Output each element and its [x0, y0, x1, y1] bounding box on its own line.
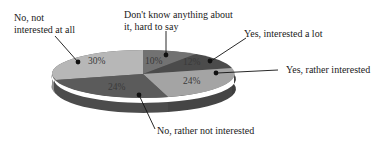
- label-no-rather-not-interested: No, rather not interested: [157, 125, 254, 136]
- pct-dont-know: 10%: [145, 56, 163, 66]
- label-yes-rather-interested: Yes, rather interested: [286, 64, 370, 75]
- label-no-not-interested-at-all-line2: interested at all: [14, 24, 75, 35]
- pct-no-rather-not-interested: 24%: [108, 82, 126, 92]
- pct-no-not-interested-at-all: 30%: [88, 56, 106, 66]
- label-dont-know-line1: Don't know anything about: [124, 9, 233, 20]
- pct-yes-interested-a-lot: 12%: [183, 57, 201, 67]
- label-dont-know-line2: it, hard to say: [124, 21, 178, 32]
- label-yes-interested-a-lot: Yes, interested a lot: [244, 28, 323, 39]
- pie-top-face: [52, 50, 235, 98]
- pct-yes-rather-interested: 24%: [183, 76, 201, 86]
- pie-chart-3d: 30% 10% 12% 24% 24% No, not interested a…: [0, 0, 390, 146]
- label-no-not-interested-at-all-line1: No, not: [14, 12, 44, 23]
